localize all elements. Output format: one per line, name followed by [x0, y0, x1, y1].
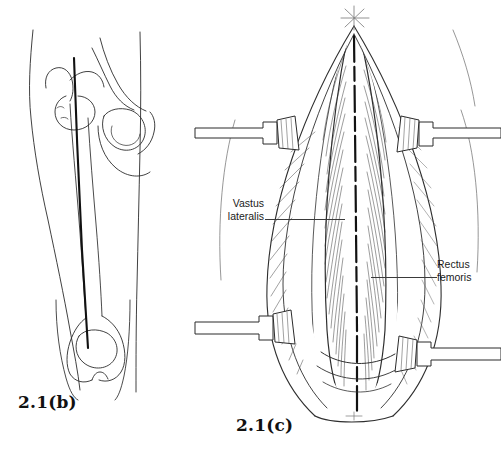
rectus-femoris-fibres: [364, 54, 386, 390]
figure-caption-c: 2.1(c): [236, 415, 293, 435]
thigh-incision-drawing: [0, 0, 200, 400]
apex-suture-mark: [341, 6, 369, 30]
label-rectus-line-1: Rectus: [437, 258, 470, 270]
label-rectus-femoris: Rectusfemoris: [437, 258, 499, 283]
obturator-foramen: [102, 109, 145, 151]
retractor-upper-right: [397, 116, 501, 152]
femoral-shaft-lateral-cortex: [88, 118, 102, 316]
cut-fascia-beads-left: [294, 120, 317, 372]
obturator-inner-shadow: [111, 126, 140, 145]
trochanteric-fossa-mark-2: [61, 117, 68, 119]
medial-condyle: [99, 316, 125, 381]
intermuscular-septum: [354, 36, 357, 414]
trochanteric-fossa-mark-1: [57, 107, 64, 109]
leader-line-rectus-femoris: [371, 277, 437, 278]
figure-2-1-c: [195, 0, 501, 463]
distal-apex-mark: [346, 412, 362, 420]
label-vastus-line-1: Vastus: [233, 197, 264, 209]
label-vastus-lateralis: Vastuslateralis: [198, 197, 264, 222]
retractor-upper-left: [195, 116, 299, 150]
thigh-outline-medial: [136, 32, 141, 392]
retractor-lower-left: [195, 310, 295, 344]
leader-line-vastus-lateralis: [265, 219, 345, 220]
label-vastus-line-2: lateralis: [228, 210, 264, 222]
fascia-edge-left: [283, 34, 354, 408]
figure-page: Vastuslateralis Rectusfemoris 2.1(b) 2.1…: [0, 0, 501, 463]
outer-skin-line-right-upper: [453, 30, 475, 106]
lateral-condyle: [67, 318, 92, 382]
pelvis-outer-margin: [100, 38, 146, 111]
rectus-femoris-medial-border: [361, 40, 386, 412]
intercondylar-notch: [92, 372, 108, 380]
incision-line: [74, 58, 88, 348]
pelvis-superior-ramus: [92, 48, 134, 110]
figure-caption-b: 2.1(b): [18, 392, 77, 412]
retractor-lower-right: [395, 336, 501, 372]
patella: [76, 330, 117, 368]
greater-trochanter: [45, 68, 73, 101]
label-rectus-line-2: femoris: [437, 271, 471, 283]
